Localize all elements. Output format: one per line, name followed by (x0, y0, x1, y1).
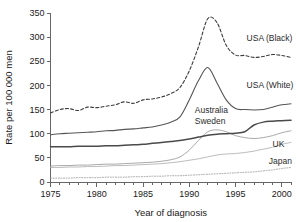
x-tick-label: 1990 (179, 189, 199, 199)
chart-container: 0501001502002503003501975198019851990199… (0, 0, 304, 222)
x-tick-label: 1985 (133, 189, 153, 199)
series-line-usa-black (51, 17, 292, 113)
y-tick-label: 150 (29, 105, 44, 115)
y-tick-label: 250 (29, 56, 44, 66)
series-label-sweden: Sweden (195, 116, 226, 126)
y-tick-label: 0 (39, 177, 44, 187)
x-tick-label: 1980 (87, 189, 107, 199)
series-line-japan (51, 168, 292, 179)
y-tick-label: 100 (29, 129, 44, 139)
series-label-uk: UK (273, 139, 285, 149)
x-tick-label: 1975 (40, 189, 60, 199)
series-label-usa-white: USA (White) (247, 80, 294, 90)
series-label-usa-black: USA (Black) (247, 33, 293, 43)
x-axis-title: Year of diagnosis (134, 207, 207, 218)
y-axis-title: Rate per 100 000 men (3, 50, 14, 145)
x-tick-label: 2000 (272, 189, 292, 199)
line-chart: 0501001502002503003501975198019851990199… (0, 0, 304, 222)
y-tick-label: 50 (34, 153, 44, 163)
series-line-sweden (51, 120, 292, 147)
y-tick-label: 300 (29, 32, 44, 42)
y-tick-label: 200 (29, 81, 44, 91)
x-tick-label: 1995 (225, 189, 245, 199)
series-label-australia: Australia (195, 105, 228, 115)
y-tick-label: 350 (29, 8, 44, 18)
series-line-australia (51, 130, 292, 166)
series-label-japan: Japan (269, 156, 292, 166)
